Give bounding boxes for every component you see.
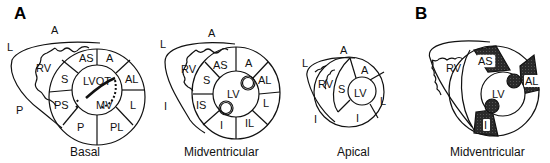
basal-seg-l: L xyxy=(130,99,136,111)
mid-seg-al: AL xyxy=(258,74,271,86)
apical-seg-i: I xyxy=(356,112,359,124)
basal-seg-s: S xyxy=(61,73,68,85)
apical-seg-a: A xyxy=(361,64,369,76)
b-seg-al: AL xyxy=(525,75,538,87)
apical-lv-outer-wall xyxy=(314,57,384,127)
mid-seg-is: IS xyxy=(196,99,206,111)
basal-seg-p: P xyxy=(77,121,84,133)
basal-orient-l: L xyxy=(7,41,13,53)
b-lv-label: LV xyxy=(492,88,505,100)
b-septal-line xyxy=(461,50,474,130)
apical-lv-label: LV xyxy=(354,87,367,99)
mid-orient-a: A xyxy=(208,27,216,39)
apical-section xyxy=(307,57,384,127)
basal-lvot-label: LVOT xyxy=(83,75,111,87)
apical-caption: Apical xyxy=(337,145,370,159)
mid-seg-s: S xyxy=(203,74,210,86)
apical-orient-i: I xyxy=(314,113,317,125)
basal-caption: Basal xyxy=(70,145,100,159)
mid-seg-i: I xyxy=(220,119,223,131)
basal-mv-label: MV xyxy=(96,99,113,111)
apical-seg-l: L xyxy=(380,95,386,107)
b-seg-i: I xyxy=(484,119,487,131)
mid-rv-label: RV xyxy=(181,63,197,75)
mid-lv-label: LV xyxy=(227,88,240,100)
b-papillary-muscle-1 xyxy=(507,74,521,88)
panel-label-a: A xyxy=(14,4,26,23)
apical-orient-a: A xyxy=(340,44,348,56)
basal-orient-p: P xyxy=(16,104,23,116)
basal-seg-pl: PL xyxy=(110,121,123,133)
mid-seg-as: AS xyxy=(213,59,228,71)
b-caption: Midventricular xyxy=(450,145,525,159)
mid-orient-l: L xyxy=(160,38,166,50)
mid-orient-i: I xyxy=(164,100,167,112)
mid-seg-l: L xyxy=(263,97,269,109)
basal-seg-ps: PS xyxy=(54,99,69,111)
basal-seg-a: A xyxy=(106,52,114,64)
basal-seg-al: AL xyxy=(125,73,138,85)
basal-rv-label: RV xyxy=(36,62,52,74)
b-rv-label: RV xyxy=(446,62,462,74)
apical-seg-s: S xyxy=(338,83,345,95)
apical-rv-label: RV xyxy=(318,78,334,90)
mid-caption: Midventricular xyxy=(184,145,259,159)
panel-label-b: B xyxy=(415,4,427,23)
cardiac-segments-diagram: A A L P RV AS A AL L PL P PS S LVOT MV B… xyxy=(0,0,550,163)
b-seg-as: AS xyxy=(478,55,493,67)
apical-orient-l: L xyxy=(302,57,308,69)
mid-seg-il: IL xyxy=(245,117,254,129)
basal-orient-a: A xyxy=(51,24,59,36)
basal-seg-as: AS xyxy=(79,52,94,64)
b-papillary-muscle-2 xyxy=(485,99,499,113)
mid-seg-a: A xyxy=(245,57,253,69)
